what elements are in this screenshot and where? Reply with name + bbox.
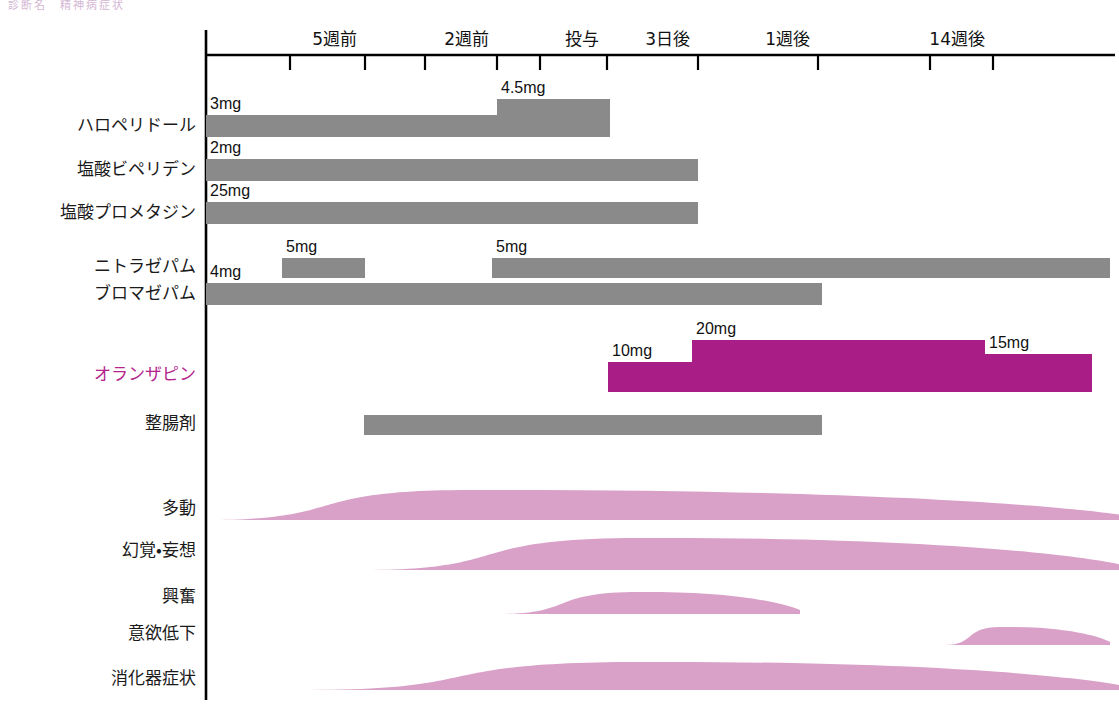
axis-tick-labels: 5週前2週前投与3日後1週後14週後 (312, 29, 985, 49)
medication-bar-segment (206, 202, 698, 224)
dose-label: 3mg (210, 95, 241, 112)
medication-timeline-chart: 診断名 精神病症状 5週前2週前投与3日後1週後14週後 3mg4.5mg2mg… (0, 0, 1119, 709)
row-label-6: 整腸剤 (145, 413, 196, 433)
dose-label: 15mg (989, 334, 1029, 351)
row-label-0: ハロペリドール (77, 115, 196, 135)
symptom-label-3: 意欲低下 (128, 623, 196, 643)
medication-bar-segment (985, 354, 1092, 392)
timeline-svg: 5週前2週前投与3日後1週後14週後 3mg4.5mg2mg25mg5mg5mg… (0, 0, 1119, 709)
axis-tick-label: 14週後 (929, 29, 985, 49)
dose-label: 4mg (210, 263, 241, 280)
row-label-1: 塩酸ビペリデン (77, 159, 196, 179)
axis-tick-label: 3日後 (645, 29, 690, 49)
symptom-label-0: 多動 (162, 498, 196, 518)
dose-label: 10mg (612, 342, 652, 359)
symptom-curve (498, 592, 800, 614)
medication-bar-segment (608, 362, 692, 392)
medication-bar-segment (364, 415, 822, 435)
medication-bar-segment (492, 258, 1110, 278)
symptom-label-1: 幻覚・妄想 (122, 540, 196, 560)
medication-bar-segment (206, 115, 497, 137)
row-label-4: ブロマゼパム (94, 283, 196, 303)
axis-tick-label: 5週前 (312, 29, 357, 49)
symptom-curve (206, 490, 1119, 520)
dose-label: 25mg (210, 182, 250, 199)
axis-tick-label: 投与 (565, 29, 599, 49)
row-label-5: オランザピン (94, 364, 196, 384)
medication-bar-segment (206, 159, 698, 181)
medication-bar-segment (497, 99, 610, 137)
dose-label: 5mg (286, 238, 317, 255)
medication-bar-segment (692, 340, 985, 392)
axis-ticks (290, 55, 993, 70)
symptom-curve (945, 627, 1110, 645)
row-label-2: 塩酸プロメタジン (60, 202, 196, 222)
row-labels: ハロペリドール塩酸ビペリデン塩酸プロメタジンニトラゼパムブロマゼパムオランザピン… (60, 115, 196, 688)
symptom-curve (364, 538, 1119, 570)
dose-label: 5mg (496, 238, 527, 255)
medication-bars (206, 99, 1110, 435)
symptom-label-4: 消化器症状 (111, 668, 196, 688)
medication-bar-segment (206, 283, 822, 305)
medication-bar-segment (282, 258, 365, 278)
axis-tick-label: 1週後 (765, 29, 810, 49)
row-label-3: ニトラゼパム (94, 256, 196, 276)
symptom-curves (206, 490, 1119, 690)
dose-label: 4.5mg (501, 79, 545, 96)
dose-label: 20mg (696, 320, 736, 337)
axis-tick-label: 2週前 (444, 29, 489, 49)
dose-label: 2mg (210, 139, 241, 156)
symptom-label-2: 興奮 (162, 586, 196, 606)
symptom-curve (310, 662, 1119, 690)
